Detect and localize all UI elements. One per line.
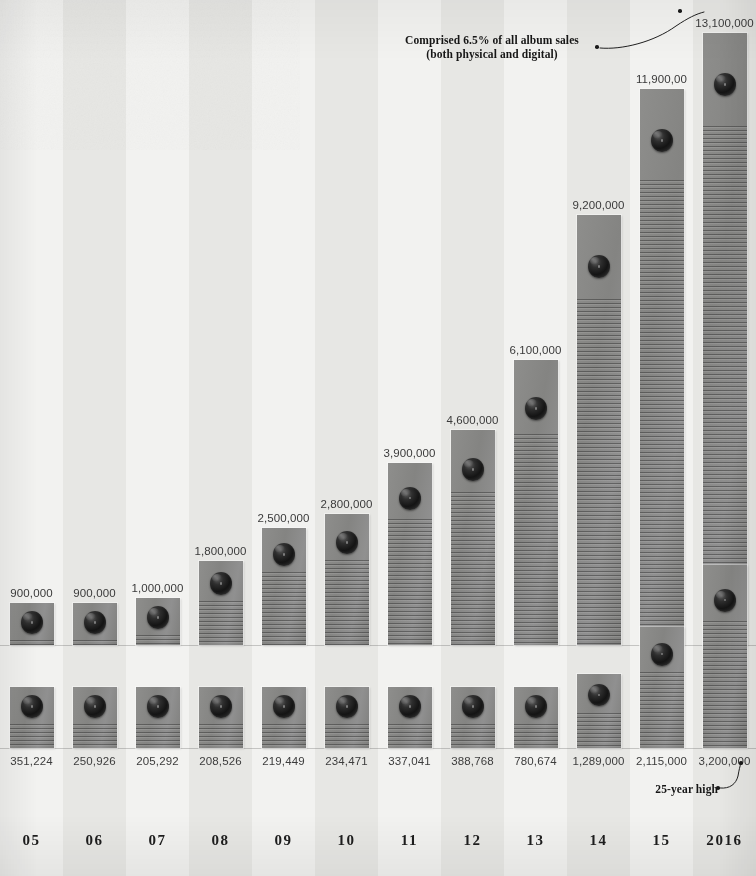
upper-bar-15	[640, 89, 684, 645]
upper-bar-11	[388, 463, 432, 645]
vinyl-grooves	[136, 724, 180, 748]
year-label-13: 13	[504, 832, 567, 849]
top-callout-anchor-dot	[595, 45, 599, 49]
upper-value-label-08: 1,800,000	[189, 545, 252, 557]
record-label-disc-icon	[21, 611, 44, 634]
record-label-disc-icon	[525, 397, 548, 420]
bottom-callout-annotation: 25-year high	[610, 783, 718, 795]
lower-value-label-14: 1,289,000	[567, 755, 630, 767]
lower-bar-11	[388, 687, 432, 748]
upper-value-label-13: 6,100,000	[504, 344, 567, 356]
vinyl-grooves	[514, 434, 558, 645]
year-label-11: 11	[378, 832, 441, 849]
upper-value-label-05: 900,000	[0, 587, 63, 599]
lower-value-label-09: 219,449	[252, 755, 315, 767]
upper-value-label-11: 3,900,000	[378, 447, 441, 459]
record-label-disc-icon	[714, 589, 737, 612]
record-label-disc-icon	[714, 73, 737, 96]
upper-value-label-15: 11,900,00	[630, 73, 693, 85]
vinyl-grooves	[577, 713, 621, 749]
upper-bar-06	[73, 603, 117, 645]
vinyl-grooves	[640, 180, 684, 645]
record-label-disc-icon	[525, 695, 548, 718]
year-label-14: 14	[567, 832, 630, 849]
lower-bar-09	[262, 687, 306, 748]
upper-value-label-06: 900,000	[63, 587, 126, 599]
lower-bar-14	[577, 674, 621, 748]
lower-bar-10	[325, 687, 369, 748]
upper-value-label-14: 9,200,000	[567, 199, 630, 211]
vinyl-grooves	[325, 560, 369, 645]
vinyl-grooves	[388, 724, 432, 748]
vinyl-grooves	[577, 299, 621, 645]
top-callout-annotation: Comprised 6.5% of all album sales (both …	[392, 33, 592, 61]
vinyl-grooves	[514, 724, 558, 748]
record-label-disc-icon	[147, 606, 170, 629]
vinyl-grooves	[640, 672, 684, 748]
vinyl-grooves	[703, 621, 747, 748]
vinyl-grooves	[73, 724, 117, 748]
record-label-disc-icon	[651, 129, 674, 152]
record-label-disc-icon	[336, 695, 359, 718]
record-label-disc-icon	[588, 255, 611, 278]
upper-bar-2016	[703, 33, 747, 645]
lower-bar-12	[451, 687, 495, 748]
lower-value-label-06: 250,926	[63, 755, 126, 767]
upper-bar-12	[451, 430, 495, 645]
lower-value-label-2016: 3,200,000	[693, 755, 756, 767]
vinyl-grooves	[199, 724, 243, 748]
lower-value-label-13: 780,674	[504, 755, 567, 767]
lower-value-label-05: 351,224	[0, 755, 63, 767]
top-callout-line-1: Comprised 6.5% of all album sales	[392, 33, 592, 47]
record-label-disc-icon	[462, 695, 485, 718]
vinyl-grooves	[73, 640, 117, 645]
top-callout-line-2: (both physical and digital)	[392, 47, 592, 61]
upper-bar-14	[577, 215, 621, 645]
bottom-callout-anchor-dot	[716, 786, 720, 790]
lower-value-label-11: 337,041	[378, 755, 441, 767]
year-label-12: 12	[441, 832, 504, 849]
upper-value-label-10: 2,800,000	[315, 498, 378, 510]
record-label-disc-icon	[84, 611, 107, 634]
record-label-disc-icon	[399, 695, 422, 718]
vinyl-grooves	[451, 492, 495, 645]
lower-bar-2016	[703, 565, 747, 748]
upper-value-label-09: 2,500,000	[252, 512, 315, 524]
upper-bar-08	[199, 561, 243, 645]
upper-bar-07	[136, 598, 180, 645]
record-label-disc-icon	[336, 531, 359, 554]
lower-bar-06	[73, 687, 117, 748]
record-label-disc-icon	[399, 487, 422, 510]
year-label-06: 06	[63, 832, 126, 849]
vinyl-grooves	[10, 640, 54, 645]
upper-bar-13	[514, 360, 558, 645]
upper-bar-10	[325, 514, 369, 645]
vinyl-grooves	[136, 635, 180, 645]
lower-value-label-08: 208,526	[189, 755, 252, 767]
record-label-disc-icon	[210, 695, 233, 718]
year-label-07: 07	[126, 832, 189, 849]
lower-bar-13	[514, 687, 558, 748]
lower-value-label-12: 388,768	[441, 755, 504, 767]
vinyl-grooves	[10, 724, 54, 748]
vinyl-grooves	[451, 724, 495, 748]
vinyl-sales-chart: 900,000351,22405900,000250,926061,000,00…	[0, 0, 756, 876]
upper-bar-05	[10, 603, 54, 645]
vinyl-grooves	[262, 724, 306, 748]
lower-series-baseline	[0, 748, 756, 749]
vinyl-grooves	[388, 519, 432, 645]
top-callout-target-dot	[678, 9, 682, 13]
record-label-disc-icon	[651, 643, 674, 666]
lower-value-label-10: 234,471	[315, 755, 378, 767]
lower-value-label-15: 2,115,000	[630, 755, 693, 767]
year-label-09: 09	[252, 832, 315, 849]
year-label-10: 10	[315, 832, 378, 849]
lower-bar-05	[10, 687, 54, 748]
upper-value-label-2016: 13,100,000	[693, 17, 756, 29]
bottom-callout-line-1: 25-year high	[655, 783, 718, 795]
record-label-disc-icon	[588, 684, 611, 707]
record-label-disc-icon	[273, 695, 296, 718]
record-label-disc-icon	[84, 695, 107, 718]
year-label-08: 08	[189, 832, 252, 849]
lower-bar-15	[640, 627, 684, 748]
